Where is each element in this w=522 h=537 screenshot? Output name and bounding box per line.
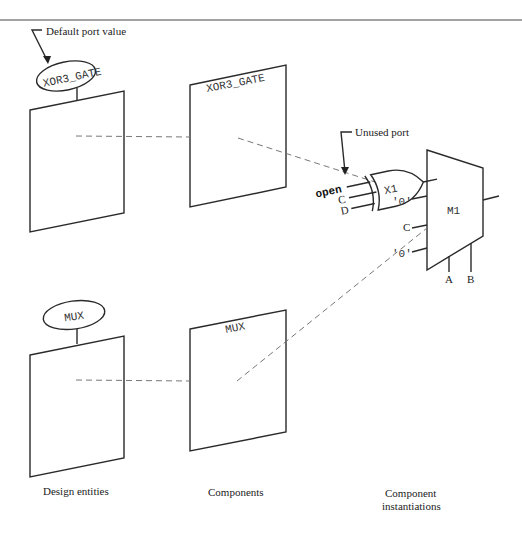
unused-port-label: Unused port xyxy=(355,126,409,138)
link-entity-component-top xyxy=(76,136,190,137)
mux-output-wire xyxy=(483,196,499,200)
arrow-head-icon xyxy=(43,56,51,64)
xor-input-d xyxy=(351,204,374,209)
unused-port-arrow xyxy=(341,132,352,172)
mux-select-label-b: B xyxy=(467,273,474,285)
mux-input-0b-wire xyxy=(412,248,427,252)
component-name-bottom: MUX xyxy=(224,320,246,336)
default-port-label: Default port value xyxy=(46,25,126,37)
arrow-head-icon xyxy=(341,167,349,175)
xor-output-wire xyxy=(423,179,437,182)
column-label-design-entities: Design entities xyxy=(43,485,109,497)
column-label-components: Components xyxy=(208,486,264,498)
xor-instance-name: X1 xyxy=(383,183,399,198)
entity-name-bottom: MUX xyxy=(64,310,86,325)
column-label-instantiations-line2: instantiations xyxy=(382,500,441,512)
mux-instance-name: M1 xyxy=(447,205,461,217)
mux-input-label-0a: '0' xyxy=(392,196,412,208)
link-component-instance-top xyxy=(238,138,375,182)
xor-gate-x1: X1 open C D xyxy=(314,161,441,222)
column-label-instantiations-line1: Component xyxy=(385,487,436,499)
mux-input-c-wire xyxy=(412,225,427,228)
design-entity-sheet-bottom xyxy=(30,336,124,477)
vhdl-component-diagram: Default port value XOR3_GATE XOR3_GATE U… xyxy=(0,0,522,537)
mux-select-label-a: A xyxy=(445,273,453,285)
design-entity-sheet-top xyxy=(30,91,124,232)
xor-input-open xyxy=(347,182,370,187)
entity-name-top: XOR3_GATE xyxy=(42,66,103,90)
mux-input-label-c: C xyxy=(403,221,410,233)
link-entity-component-bottom xyxy=(76,380,190,381)
xor-input-label-d: D xyxy=(339,203,349,216)
